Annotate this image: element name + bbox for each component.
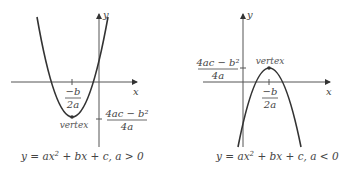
vertex-label: vertex [60,120,89,130]
k-denominator: 4a [120,121,133,132]
graph-upward-parabola: y x −b 2a vertex 4ac − b² 4a y = ax2 + b… [11,9,149,162]
parabola-diagram: y x −b 2a vertex 4ac − b² 4a y = ax2 + b… [0,0,346,175]
vertex-point [267,66,271,70]
vertex-label: vertex [256,56,285,66]
vertex-point [70,115,74,119]
equation-caption: y = ax2 + bx + c, a > 0 [20,150,144,162]
h-numerator: −b [66,86,81,97]
graph-downward-parabola: y x vertex 4ac − b² 4a −b 2a y = ax2 + b… [195,9,338,162]
y-axis-label: y [246,9,253,20]
h-numerator: −b [263,86,278,97]
h-denominator: 2a [66,99,79,110]
equation-caption: y = ax2 + bx + c, a < 0 [215,150,339,162]
x-axis-label: x [133,86,139,97]
k-numerator: 4ac − b² [195,57,239,68]
h-denominator: 2a [263,99,276,110]
k-denominator: 4a [211,70,224,81]
k-numerator: 4ac − b² [104,108,148,119]
x-axis-label: x [326,86,332,97]
y-axis-label: y [102,9,109,20]
